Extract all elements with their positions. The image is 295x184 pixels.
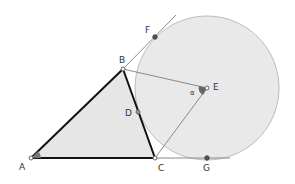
label-g: G [203, 163, 210, 173]
point-g[interactable] [205, 156, 209, 160]
point-c[interactable] [153, 156, 157, 160]
point-e[interactable] [205, 86, 209, 90]
geometry-diagram: A B C D E F G α [0, 0, 295, 184]
point-a[interactable] [29, 156, 33, 160]
point-b[interactable] [121, 67, 125, 71]
label-c: C [158, 163, 164, 173]
label-a: A [19, 162, 26, 172]
label-d: D [125, 108, 132, 118]
label-f: F [145, 25, 150, 35]
point-f[interactable] [153, 35, 157, 39]
label-b: B [119, 55, 125, 65]
label-e: E [213, 82, 219, 92]
label-alpha: α [190, 89, 195, 97]
point-d[interactable] [136, 110, 140, 114]
